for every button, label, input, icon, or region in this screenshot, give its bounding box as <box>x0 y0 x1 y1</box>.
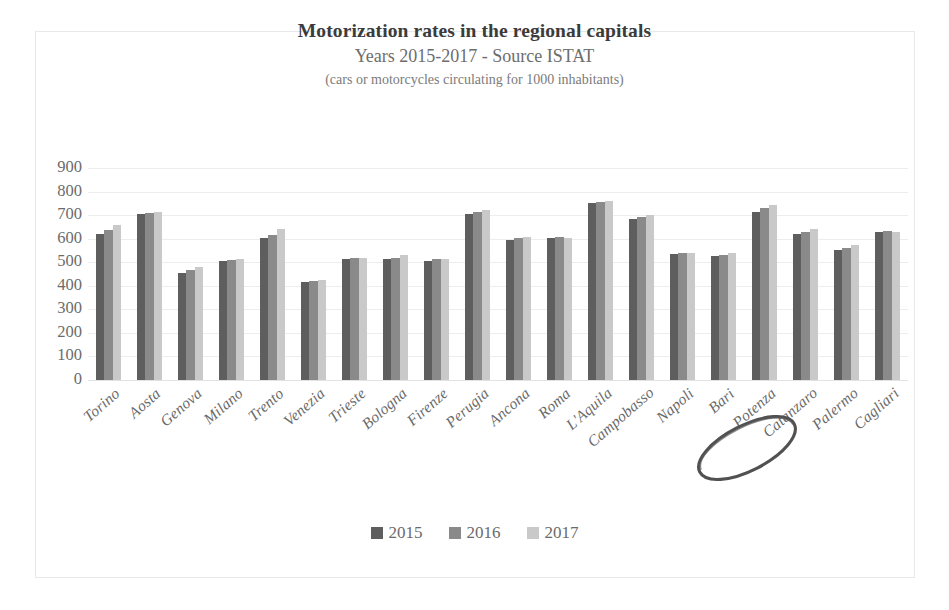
y-tick-label-700: 700 <box>38 207 82 224</box>
bar-laquila-2016 <box>596 202 604 380</box>
bar-bari-2015 <box>711 256 719 380</box>
bar-trieste-2015 <box>342 259 350 380</box>
legend-swatch-2016 <box>449 527 461 539</box>
bar-group-roma <box>539 168 580 380</box>
bar-campobasso-2015 <box>629 219 637 380</box>
bar-roma-2015 <box>547 238 555 381</box>
bar-group-ancona <box>498 168 539 380</box>
bar-group-aosta <box>129 168 170 380</box>
bar-roma-2016 <box>555 237 563 380</box>
legend-swatch-2017 <box>527 527 539 539</box>
bar-palermo-2017 <box>851 245 859 380</box>
bar-bari-2016 <box>719 255 727 380</box>
bar-torino-2015 <box>96 234 104 380</box>
bar-torino-2017 <box>113 225 121 380</box>
gridline-0 <box>88 380 908 381</box>
bar-trento-2015 <box>260 238 268 381</box>
bar-napoli-2016 <box>678 253 686 380</box>
x-axis-slot: Genova <box>170 382 211 492</box>
x-axis-slot: Potenza <box>744 382 785 492</box>
bar-group-potenza <box>744 168 785 380</box>
y-tick-label-400: 400 <box>38 277 82 294</box>
x-axis-slot: Roma <box>539 382 580 492</box>
legend-swatch-2015 <box>371 527 383 539</box>
bar-trento-2016 <box>268 235 276 380</box>
bar-group-torino <box>88 168 129 380</box>
bar-torino-2016 <box>104 230 112 380</box>
x-axis-slot: Campobasso <box>621 382 662 492</box>
bar-trento-2017 <box>277 229 285 380</box>
bar-aosta-2015 <box>137 214 145 380</box>
bar-group-bologna <box>375 168 416 380</box>
y-tick-label-800: 800 <box>38 183 82 200</box>
bar-genova-2016 <box>186 270 194 380</box>
bar-bologna-2017 <box>400 255 408 380</box>
bar-group-trieste <box>334 168 375 380</box>
y-tick-label-200: 200 <box>38 324 82 341</box>
x-axis-slot: Aosta <box>129 382 170 492</box>
bar-palermo-2016 <box>842 248 850 380</box>
bar-ancona-2015 <box>506 240 514 380</box>
y-tick-label-100: 100 <box>38 348 82 365</box>
bar-palermo-2015 <box>834 250 842 380</box>
bar-venezia-2016 <box>309 281 317 380</box>
legend: 201520162017 <box>0 524 949 541</box>
y-tick-label-500: 500 <box>38 254 82 270</box>
y-tick-label-900: 900 <box>38 159 82 176</box>
bar-potenza-2015 <box>752 212 760 380</box>
x-axis: TorinoAostaGenovaMilanoTrentoVeneziaTrie… <box>88 382 908 492</box>
bar-group-perugia <box>457 168 498 380</box>
bar-perugia-2015 <box>465 214 473 380</box>
bar-aosta-2016 <box>145 213 153 380</box>
bar-group-campobasso <box>621 168 662 380</box>
x-axis-slot: Ancona <box>498 382 539 492</box>
legend-item-2015[interactable]: 2015 <box>371 524 423 541</box>
bar-ancona-2016 <box>514 238 522 381</box>
bar-napoli-2015 <box>670 254 678 380</box>
bar-group-catanzaro <box>785 168 826 380</box>
bar-group-palermo <box>826 168 867 380</box>
legend-label-2016: 2016 <box>467 524 501 541</box>
bar-laquila-2017 <box>605 201 613 380</box>
bar-cagliari-2017 <box>892 232 900 380</box>
bar-trieste-2017 <box>359 258 367 380</box>
bar-bari-2017 <box>728 253 736 380</box>
bar-group-laquila <box>580 168 621 380</box>
bar-campobasso-2017 <box>646 215 654 380</box>
x-axis-slot: Milano <box>211 382 252 492</box>
bar-genova-2017 <box>195 267 203 380</box>
bar-genova-2015 <box>178 273 186 380</box>
bar-firenze-2016 <box>432 259 440 380</box>
legend-item-2016[interactable]: 2016 <box>449 524 501 541</box>
x-axis-slot: Firenze <box>416 382 457 492</box>
legend-label-2015: 2015 <box>389 524 423 541</box>
bar-campobasso-2016 <box>637 217 645 380</box>
bar-firenze-2017 <box>441 259 449 380</box>
x-axis-slot: Trento <box>252 382 293 492</box>
bars-layer <box>88 168 908 380</box>
bar-ancona-2017 <box>523 237 531 380</box>
bar-perugia-2016 <box>473 212 481 380</box>
bar-milano-2016 <box>227 260 235 380</box>
legend-label-2017: 2017 <box>545 524 579 541</box>
bar-group-napoli <box>662 168 703 380</box>
x-axis-slot: Bologna <box>375 382 416 492</box>
bar-group-venezia <box>293 168 334 380</box>
x-axis-slot: Venezia <box>293 382 334 492</box>
x-axis-slot: Cagliari <box>867 382 908 492</box>
x-axis-slot: Bari <box>703 382 744 492</box>
bar-venezia-2015 <box>301 282 309 380</box>
bar-potenza-2017 <box>769 205 777 380</box>
bar-catanzaro-2016 <box>801 232 809 380</box>
x-axis-slot: Napoli <box>662 382 703 492</box>
bar-group-cagliari <box>867 168 908 380</box>
x-axis-slot: Perugia <box>457 382 498 492</box>
bar-trieste-2016 <box>350 258 358 380</box>
bar-group-genova <box>170 168 211 380</box>
bar-group-firenze <box>416 168 457 380</box>
legend-item-2017[interactable]: 2017 <box>527 524 579 541</box>
bar-firenze-2015 <box>424 261 432 380</box>
bar-cagliari-2016 <box>883 231 891 380</box>
bar-potenza-2016 <box>760 208 768 380</box>
bar-venezia-2017 <box>318 280 326 380</box>
